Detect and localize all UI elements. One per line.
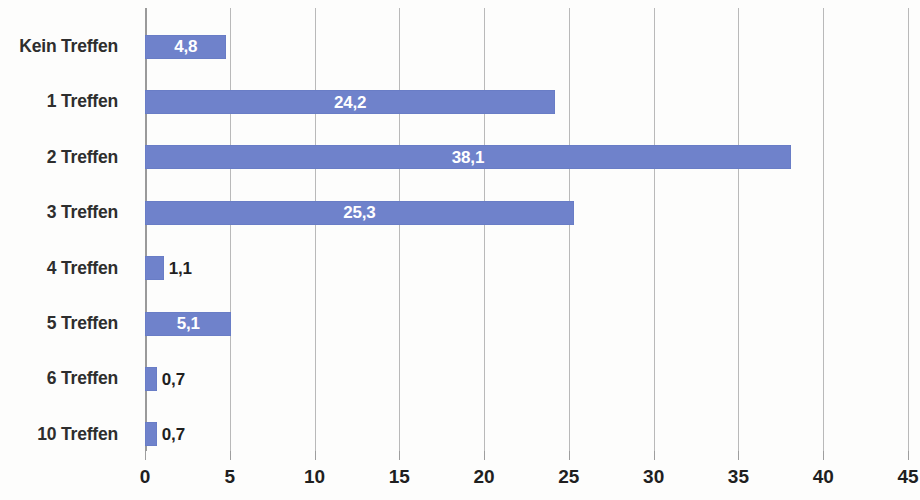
x-tick-mark (230, 451, 231, 460)
bar-value-label: 24,2 (334, 94, 366, 111)
bar-row: 1 Treffen24,2 (145, 74, 908, 129)
x-tick-label: 35 (728, 467, 749, 486)
x-tick-label: 5 (224, 467, 235, 486)
x-tick-label: 0 (140, 467, 151, 486)
x-tick-label: 45 (897, 467, 918, 486)
category-label: 6 Treffen (0, 370, 118, 388)
x-tick-mark (315, 451, 316, 460)
bar (145, 367, 157, 391)
bar-value-label: 38,1 (452, 149, 484, 166)
category-label: 10 Treffen (0, 426, 118, 444)
x-tick-mark (738, 451, 739, 460)
x-tick-mark (823, 451, 824, 460)
bar-value-label: 1,1 (169, 260, 192, 277)
bar-row: 5 Treffen5,1 (145, 296, 908, 351)
x-tick-mark (399, 451, 400, 460)
bar (145, 422, 157, 446)
bar-value-label: 5,1 (177, 315, 200, 332)
bar-value-label: 25,3 (343, 204, 375, 221)
x-tick-label: 30 (643, 467, 664, 486)
x-tick-label: 40 (813, 467, 834, 486)
category-label: 5 Treffen (0, 315, 118, 333)
gridline-45 (908, 8, 909, 451)
x-tick-mark (654, 451, 655, 460)
bar-row: 3 Treffen25,3 (145, 185, 908, 240)
bar-chart: Kein Treffen4,81 Treffen24,22 Treffen38,… (0, 0, 920, 500)
x-tick-label: 20 (474, 467, 495, 486)
bar-value-label: 0,7 (162, 426, 185, 443)
bar (145, 256, 164, 280)
bar-row: 2 Treffen38,1 (145, 130, 908, 185)
bar-row: 4 Treffen1,1 (145, 241, 908, 296)
bar-rows: Kein Treffen4,81 Treffen24,22 Treffen38,… (145, 8, 908, 451)
bar-row: Kein Treffen4,8 (145, 19, 908, 74)
x-tick-mark (145, 451, 146, 460)
bar-row: 6 Treffen0,7 (145, 351, 908, 406)
x-tick-mark (484, 451, 485, 460)
x-tick-label: 25 (558, 467, 579, 486)
category-label: 4 Treffen (0, 260, 118, 278)
category-label: 1 Treffen (0, 93, 118, 111)
bar-value-label: 4,8 (174, 38, 197, 55)
category-label: 2 Treffen (0, 149, 118, 167)
x-tick-mark (908, 451, 909, 460)
x-axis: 051015202530354045 (145, 451, 908, 491)
plot-area: Kein Treffen4,81 Treffen24,22 Treffen38,… (145, 8, 908, 451)
x-tick-mark (569, 451, 570, 460)
x-tick-label: 15 (389, 467, 410, 486)
bar-value-label: 0,7 (162, 371, 185, 388)
x-tick-label: 10 (304, 467, 325, 486)
category-label: 3 Treffen (0, 204, 118, 222)
category-label: Kein Treffen (0, 38, 118, 56)
